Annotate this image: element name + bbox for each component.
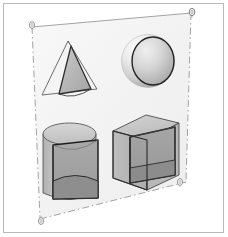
- eyelet-top-right[interactable]: [189, 8, 195, 15]
- cylinder-interior-floor: [53, 176, 98, 200]
- scene-canvas: [0, 0, 228, 237]
- solid-cylinder[interactable]: [43, 123, 98, 200]
- eyelet-bottom-right[interactable]: [177, 179, 182, 186]
- eyelet-top-left[interactable]: [29, 22, 34, 29]
- solid-cube[interactable]: [113, 115, 179, 190]
- sphere-cut-opening[interactable]: [132, 37, 174, 85]
- solid-sphere[interactable]: [122, 35, 175, 88]
- screenshot-root: 3D primitive solids on tilted plane Cone…: [0, 0, 228, 237]
- eyelet-bottom-left[interactable]: [38, 218, 43, 225]
